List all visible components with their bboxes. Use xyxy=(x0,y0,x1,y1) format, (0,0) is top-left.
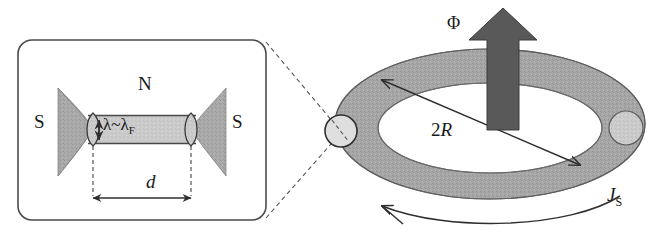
label-supercurrent: JS xyxy=(607,185,622,208)
ring-diameter-arrow xyxy=(382,80,580,165)
weak-link-junction-right xyxy=(609,111,643,145)
label-coherence-width: λ~λF xyxy=(103,116,135,136)
figure-svg xyxy=(0,0,657,239)
contact-lens-left xyxy=(87,113,99,146)
label-magnetic-flux: Φ xyxy=(447,14,460,32)
label-superconductor-right: S xyxy=(232,112,243,131)
weak-link-junction-left xyxy=(325,115,357,147)
label-junction-length: d xyxy=(146,172,156,191)
label-normal-region: N xyxy=(138,74,152,93)
label-diameter-number: 2 xyxy=(431,119,441,140)
label-diameter-symbol: R xyxy=(441,119,453,140)
label-lambda-subscript: F xyxy=(129,124,135,136)
label-superconductor-left: S xyxy=(34,112,45,131)
label-ring-diameter: 2R xyxy=(431,120,452,139)
label-lambda-main: λ~λ xyxy=(103,115,129,134)
contact-lens-right xyxy=(185,113,197,146)
label-supercurrent-subscript: S xyxy=(615,195,622,209)
figure-root: S S N λ~λF d Φ 2R JS xyxy=(0,0,657,239)
supercurrent-arrow xyxy=(382,196,620,224)
